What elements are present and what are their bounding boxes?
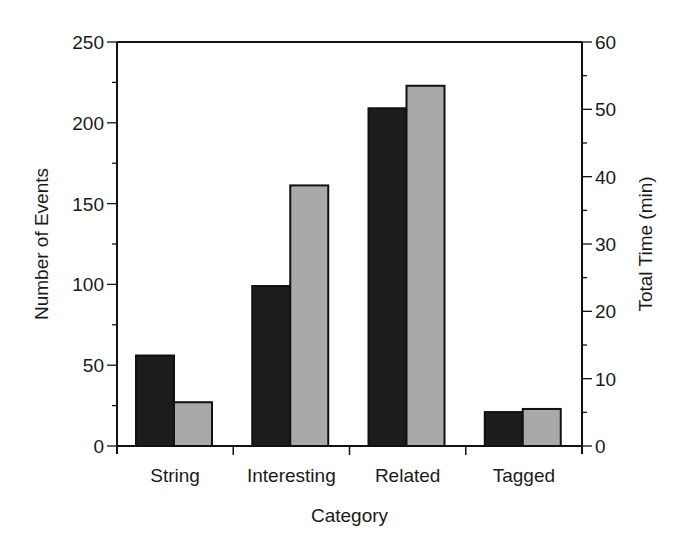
y2-tick-label: 20 [595, 301, 616, 322]
bar-related-events [369, 108, 407, 446]
y-tick-label: 50 [83, 355, 104, 376]
x-tick-label: Interesting [247, 465, 336, 486]
x-axis-title: Category [311, 505, 389, 526]
y2-tick-label: 30 [595, 234, 616, 255]
x-tick-label: Related [375, 465, 441, 486]
bar-string-time [174, 402, 212, 446]
y2-tick-label: 10 [595, 369, 616, 390]
y2-tick-label: 0 [595, 436, 606, 457]
bars-group [136, 86, 561, 446]
y2-tick-label: 60 [595, 32, 616, 53]
bar-interesting-events [252, 286, 290, 446]
bar-string-events [136, 356, 174, 446]
y-tick-label: 250 [72, 32, 104, 53]
bar-tagged-time [523, 409, 561, 446]
bar-chart: StringInterestingRelatedTagged0501001502… [0, 0, 689, 559]
y-tick-label: 150 [72, 194, 104, 215]
y-tick-label: 0 [93, 436, 104, 457]
y-tick-label: 100 [72, 274, 104, 295]
bar-interesting-time [290, 185, 328, 446]
bar-tagged-events [485, 412, 523, 446]
labels-group: StringInterestingRelatedTagged0501001502… [31, 32, 656, 526]
y-tick-label: 200 [72, 113, 104, 134]
bar-related-time [407, 86, 445, 446]
axes-group [107, 42, 592, 455]
x-tick-label: Tagged [493, 465, 555, 486]
y-axis-title: Number of Events [31, 168, 52, 320]
y2-tick-label: 40 [595, 167, 616, 188]
y2-axis-title: Total Time (min) [635, 176, 656, 311]
y2-tick-label: 50 [595, 99, 616, 120]
x-tick-label: String [150, 465, 200, 486]
